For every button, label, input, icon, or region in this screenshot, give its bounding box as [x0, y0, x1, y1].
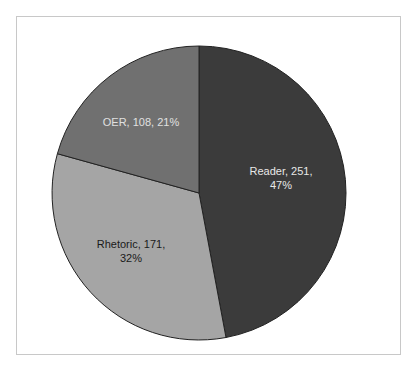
label-reader-line2: 47% — [270, 179, 292, 191]
label-oer: OER, 108, 21% — [103, 116, 180, 128]
label-reader-line1: Reader, 251, — [250, 165, 313, 177]
label-rhetoric-line1: Rhetoric, 171, — [97, 238, 165, 250]
label-rhetoric-line2: 32% — [120, 252, 142, 264]
slice-reader — [199, 46, 346, 338]
pie-chart: Reader, 251, 47% Rhetoric, 171, 32% OER,… — [0, 0, 416, 368]
